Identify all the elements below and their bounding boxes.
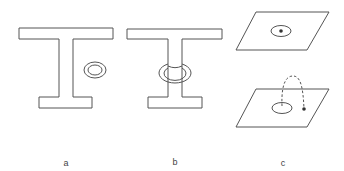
ring-outer-a xyxy=(84,62,106,78)
point-lower-c xyxy=(302,107,306,111)
panel-label-c: c xyxy=(281,158,286,168)
dashed-arc-c xyxy=(282,76,304,109)
panel-label-b: b xyxy=(172,157,177,167)
panel-label-a: a xyxy=(63,158,68,168)
i-beam-shape-a xyxy=(19,28,113,108)
i-beam-shape-b xyxy=(127,29,222,108)
linked-ring-b xyxy=(159,64,191,83)
point-upper-c xyxy=(279,29,283,33)
figure-canvas xyxy=(0,0,344,171)
ring-inner-a xyxy=(88,65,102,75)
